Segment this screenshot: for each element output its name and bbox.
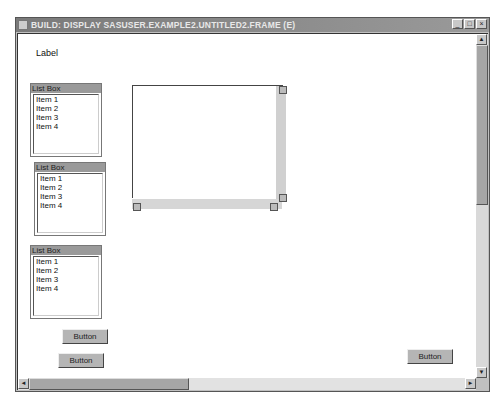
vertical-scroll-thumb[interactable] bbox=[476, 45, 488, 205]
frame-canvas[interactable]: Label List Box Item 1 Item 2 Item 3 Item… bbox=[17, 33, 488, 390]
scroll-left-icon[interactable]: ◄ bbox=[18, 378, 29, 389]
list-item[interactable]: Item 1 bbox=[38, 174, 102, 183]
title-bar[interactable]: BUILD: DISPLAY SASUSER.EXAMPLE2.UNTITLED… bbox=[16, 18, 489, 32]
window-title: BUILD: DISPLAY SASUSER.EXAMPLE2.UNTITLED… bbox=[31, 20, 295, 30]
resize-handle-bottom-right[interactable] bbox=[270, 203, 278, 211]
build-window: BUILD: DISPLAY SASUSER.EXAMPLE2.UNTITLED… bbox=[15, 17, 490, 392]
list-item[interactable]: Item 3 bbox=[34, 275, 98, 284]
list-item[interactable]: Item 4 bbox=[34, 284, 98, 293]
list-item[interactable]: Item 2 bbox=[34, 104, 98, 113]
list-item[interactable]: Item 2 bbox=[38, 183, 102, 192]
button-3[interactable]: Button bbox=[407, 349, 453, 364]
scroll-down-icon[interactable]: ▼ bbox=[476, 367, 487, 378]
list-box-title: List Box bbox=[31, 246, 101, 255]
resize-handle-bottom-left[interactable] bbox=[133, 203, 141, 211]
scroll-up-icon[interactable]: ▲ bbox=[476, 34, 487, 45]
vertical-scrollbar[interactable]: ▲ ▼ bbox=[476, 34, 488, 378]
list-item[interactable]: Item 1 bbox=[34, 257, 98, 266]
close-button[interactable]: × bbox=[476, 19, 487, 29]
list-item[interactable]: Item 4 bbox=[34, 122, 98, 131]
list-box-title: List Box bbox=[31, 84, 101, 93]
app-icon bbox=[18, 20, 28, 30]
list-item[interactable]: Item 1 bbox=[34, 95, 98, 104]
maximize-button[interactable]: □ bbox=[464, 19, 475, 29]
list-item[interactable]: Item 3 bbox=[34, 113, 98, 122]
list-item[interactable]: Item 3 bbox=[38, 192, 102, 201]
list-box-1[interactable]: List Box Item 1 Item 2 Item 3 Item 4 bbox=[30, 83, 102, 157]
scroll-corner bbox=[476, 378, 488, 390]
minimize-button[interactable]: _ bbox=[452, 19, 463, 29]
scroll-right-icon[interactable]: ► bbox=[465, 378, 476, 389]
text-area-vertical-scrollbar[interactable] bbox=[276, 86, 286, 199]
list-item[interactable]: Item 2 bbox=[34, 266, 98, 275]
resize-handle-top-right[interactable] bbox=[279, 86, 287, 94]
text-area-horizontal-scrollbar[interactable] bbox=[132, 199, 282, 209]
label-widget[interactable]: Label bbox=[36, 48, 58, 58]
list-box-2[interactable]: List Box Item 1 Item 2 Item 3 Item 4 bbox=[34, 162, 106, 236]
horizontal-scrollbar[interactable]: ◄ ► bbox=[18, 378, 476, 390]
resize-handle-right[interactable] bbox=[279, 194, 287, 202]
horizontal-scroll-thumb[interactable] bbox=[29, 378, 189, 390]
list-box-3[interactable]: List Box Item 1 Item 2 Item 3 Item 4 bbox=[30, 245, 102, 319]
text-area-widget[interactable] bbox=[132, 85, 283, 198]
list-box-title: List Box bbox=[35, 163, 105, 172]
button-1[interactable]: Button bbox=[62, 329, 108, 344]
button-2[interactable]: Button bbox=[58, 353, 104, 368]
list-item[interactable]: Item 4 bbox=[38, 201, 102, 210]
